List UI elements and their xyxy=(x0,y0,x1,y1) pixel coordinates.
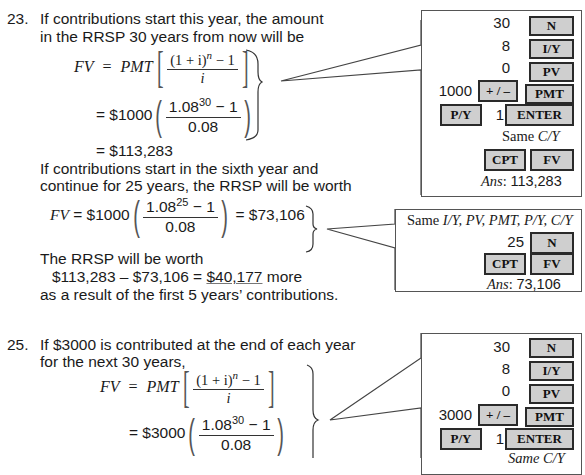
key-plus-minus: + / – xyxy=(478,80,518,102)
key-fv-b: FV xyxy=(530,253,574,275)
key-pmt: PMT xyxy=(525,84,574,104)
key-enter-25: ENTER xyxy=(505,428,574,450)
iy-value: 8 xyxy=(470,37,510,54)
key-cpt: CPT xyxy=(484,149,526,171)
problem-23-number: 23. xyxy=(7,10,29,28)
fv-step1-23: = $1000(1.0830 − 10.08) xyxy=(96,96,254,136)
key-fv: FV xyxy=(530,149,574,171)
same-cy-note: Same C/Y xyxy=(502,128,560,145)
brace-25 xyxy=(307,365,318,458)
problem-23-text-line1: If contributions start this year, the am… xyxy=(40,10,323,28)
key-plus-minus-25: + / – xyxy=(478,404,518,426)
key-pv-25: PV xyxy=(529,384,574,404)
fv-formula-25: FV = PMT[(1 + i)n − 1i] xyxy=(100,366,278,410)
key-py: P/Y xyxy=(440,104,482,126)
n-value-25b: 30 xyxy=(470,338,510,355)
key-n-b: N xyxy=(530,232,574,254)
pmt-value: 1000 xyxy=(430,82,472,99)
key-iy: I/Y xyxy=(529,39,574,59)
iy-value-25: 8 xyxy=(470,360,510,377)
n-value-25: 25 xyxy=(488,233,524,250)
pv-value-25: 0 xyxy=(470,382,510,399)
key-cpt-b: CPT xyxy=(484,253,526,275)
same-cy-note-25: Same C/Y xyxy=(508,450,565,467)
fv-result-23: = $113,283 xyxy=(96,142,173,160)
brace-23b xyxy=(306,206,317,252)
fv-step1-25: = $3000(1.0830 − 10.08) xyxy=(129,414,287,454)
pmt-symbol: PMT xyxy=(121,58,153,75)
callout-23b xyxy=(327,209,395,290)
problem-23-text-line4: continue for 25 years, the RRSP will be … xyxy=(40,177,352,195)
key-n: N xyxy=(529,16,574,36)
answer-23b: Ans: 73,106 xyxy=(487,276,561,293)
key-n-25: N xyxy=(529,338,574,358)
key-py-25: P/Y xyxy=(440,428,482,450)
key-pmt-25: PMT xyxy=(525,407,574,427)
problem-23-text-line2: in the RRSP 30 years from now will be xyxy=(40,28,304,46)
problem-23-text-line6: as a result of the first 5 years’ contri… xyxy=(40,286,338,304)
pv-value: 0 xyxy=(470,59,510,76)
n-value: 30 xyxy=(470,14,510,31)
same-vars-note: Same I/Y, PV, PMT, P/Y, C/Y xyxy=(407,212,573,229)
key-pv: PV xyxy=(529,62,574,82)
answer-23a: Ans: 113,283 xyxy=(481,173,562,190)
problem-23-text-line5: The RRSP will be worth xyxy=(40,250,203,268)
problem-25-number: 25. xyxy=(7,336,29,354)
problem-23-text-line3: If contributions start in the sixth year… xyxy=(40,160,318,178)
fv-symbol: FV xyxy=(74,58,94,75)
answer-underlined: $40,177 xyxy=(206,268,262,285)
key-iy-25: I/Y xyxy=(529,361,574,381)
pmt-value-25: 3000 xyxy=(430,406,472,423)
problem-25-text-line1: If $3000 is contributed at the end of ea… xyxy=(40,336,355,354)
difference-line: $113,283 – $73,106 = $40,177 more xyxy=(52,268,302,286)
key-enter: ENTER xyxy=(505,104,574,126)
fv-formula-23: FV = PMT[(1 + i)n − 1i] xyxy=(74,46,252,90)
fv-25-years: FV = $1000(1.0825 − 10.08) = $73,106 xyxy=(50,196,305,236)
